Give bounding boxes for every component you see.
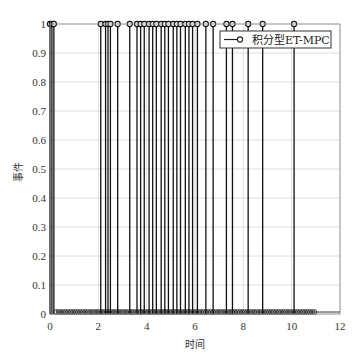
x-tick-label: 8 [241, 320, 247, 332]
event-stems [47, 21, 340, 314]
x-axis-label: 时间 [185, 338, 205, 350]
x-tick-label: 4 [144, 320, 150, 332]
x-tick-label: 0 [47, 320, 53, 332]
y-tick-label: 0 [41, 308, 47, 320]
legend-marker-icon [237, 37, 242, 42]
y-tick-label: 0.3 [32, 221, 46, 233]
x-tick-label: 6 [192, 320, 198, 332]
y-tick-label: 0.6 [32, 134, 46, 146]
legend-entry-label: 积分型ET-MPC [252, 33, 330, 47]
x-axis-ticks: 024681012 [47, 320, 345, 332]
y-tick-label: 0.8 [32, 76, 46, 88]
y-tick-label: 0.4 [32, 192, 46, 204]
y-tick-label: 1 [41, 18, 47, 30]
y-axis-ticks: 00.10.20.30.40.50.60.70.80.91 [32, 18, 54, 320]
x-tick-label: 12 [335, 320, 346, 332]
y-axis-label: 事件 [12, 162, 24, 182]
y-tick-label: 0.9 [32, 47, 46, 59]
legend: 积分型ET-MPC [220, 31, 331, 48]
x-tick-label: 10 [286, 320, 298, 332]
y-tick-label: 0.1 [32, 279, 46, 291]
stem-chart: 024681012 00.10.20.30.40.50.60.70.80.91 … [0, 0, 362, 364]
x-tick-label: 2 [96, 320, 102, 332]
y-tick-label: 0.5 [32, 163, 46, 175]
y-tick-label: 0.2 [32, 250, 46, 262]
y-tick-label: 0.7 [32, 105, 46, 117]
grid-lines [50, 24, 340, 314]
